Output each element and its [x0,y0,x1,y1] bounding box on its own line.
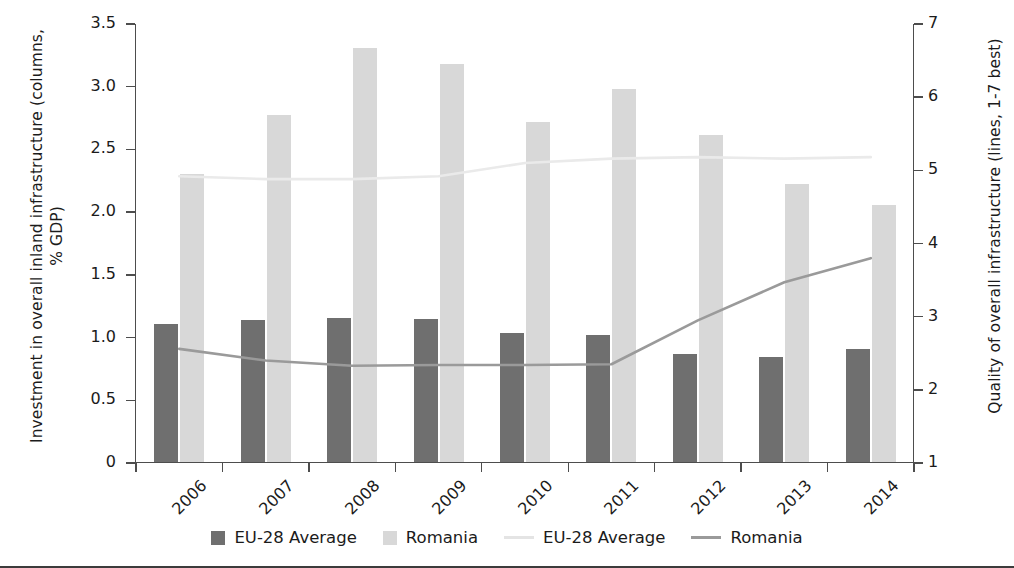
legend-item-2[interactable]: EU-28 Average [504,528,665,547]
legend-swatch-line-icon [691,536,721,539]
y-axis-right-tick-label: 4 [928,233,988,252]
y-axis-left-tick [126,462,135,463]
x-axis-tick [481,463,482,472]
y-axis-left-tick-label: 2.5 [56,138,116,157]
y-axis-left-tick-label: 0.5 [56,389,116,408]
x-axis-tick [654,463,655,472]
chart-legend: EU-28 AverageRomaniaEU-28 AverageRomania [0,528,1014,547]
y-axis-right-tick [914,243,923,244]
x-axis-tick [308,463,309,472]
legend-label: Romania [406,528,478,547]
legend-label: EU-28 Average [543,528,665,547]
y-axis-left-tick [126,149,135,150]
legend-swatch-line-icon [504,536,534,539]
y-axis-left-tick-label: 1.5 [56,264,116,283]
x-axis-tick [740,463,741,472]
x-axis-tick [222,463,223,472]
y-axis-left-tick [126,274,135,275]
y-axis-left-tick [126,211,135,212]
y-axis-right-tick [914,96,923,97]
y-axis-right-tick [914,316,923,317]
y-axis-right-tick [914,170,923,171]
y-axis-left-tick-label: 3.0 [56,76,116,95]
legend-swatch-box-icon [383,531,397,545]
x-axis-tick [135,463,136,472]
x-axis-tick [395,463,396,472]
y-axis-right-tick-label: 1 [928,452,988,471]
y-axis-right-tick-label: 2 [928,379,988,398]
legend-item-1[interactable]: Romania [383,528,478,547]
y-axis-left-tick-label: 1.0 [56,327,116,346]
y-axis-right-title: Quality of overall infrastructure (lines… [985,16,1005,436]
y-axis-left-tick [126,400,135,401]
legend-label: Romania [730,528,802,547]
legend-item-0[interactable]: EU-28 Average [211,528,356,547]
y-axis-left-tick-label: 0 [56,452,116,471]
y-axis-right-tick-label: 5 [928,159,988,178]
line-series-overlay [136,24,914,463]
x-axis-tick [568,463,569,472]
x-axis-tick [913,463,914,472]
plot-area: 00.51.01.52.02.53.03.5 1234567 200620072… [136,24,914,462]
y-axis-right-tick-label: 6 [928,86,988,105]
y-axis-right-tick [914,23,923,24]
y-axis-left-tick-label: 2.0 [56,201,116,220]
x-axis-tick [827,463,828,472]
y-axis-left-tick-label: 3.5 [56,13,116,32]
legend-swatch-box-icon [211,531,225,545]
y-axis-right-tick [914,389,923,390]
legend-label: EU-28 Average [234,528,356,547]
y-axis-right-tick-label: 7 [928,13,988,32]
legend-item-3[interactable]: Romania [691,528,802,547]
y-axis-left-tick [126,23,135,24]
line-eu28-average [179,157,871,179]
y-axis-left-tick [126,337,135,338]
y-axis-left-tick [126,86,135,87]
line-romania [179,258,871,366]
y-axis-right-tick [914,462,923,463]
chart-figure: Investment in overall inland infrastruct… [0,0,1014,568]
y-axis-right-tick-label: 3 [928,306,988,325]
